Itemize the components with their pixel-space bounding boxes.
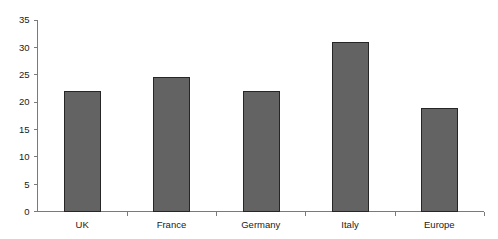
bar [65, 92, 101, 212]
y-axis-tick-label: 5 [24, 179, 29, 190]
y-axis-tick-label: 30 [19, 42, 30, 53]
x-axis-tick-label: France [157, 219, 187, 230]
x-axis-tick-label: Italy [341, 219, 359, 230]
x-axis-tick-label: Europe [424, 219, 455, 230]
y-axis-tick-label: 15 [19, 124, 30, 135]
y-axis-tick-label: 35 [19, 14, 30, 25]
y-axis-tick-label: 10 [19, 151, 30, 162]
bar [333, 43, 369, 212]
bar-chart: 05101520253035 UKFranceGermanyItalyEurop… [0, 0, 498, 239]
x-axis-tick-label: UK [76, 219, 90, 230]
y-axis-tick-label: 25 [19, 69, 30, 80]
y-axis-tick-label: 20 [19, 96, 30, 107]
chart-canvas: 05101520253035 UKFranceGermanyItalyEurop… [0, 0, 498, 239]
bar [422, 109, 458, 212]
y-axis-tick-label: 0 [24, 206, 29, 217]
x-axis-tick-label: Germany [241, 219, 280, 230]
bar [244, 92, 280, 212]
bar [154, 78, 190, 212]
